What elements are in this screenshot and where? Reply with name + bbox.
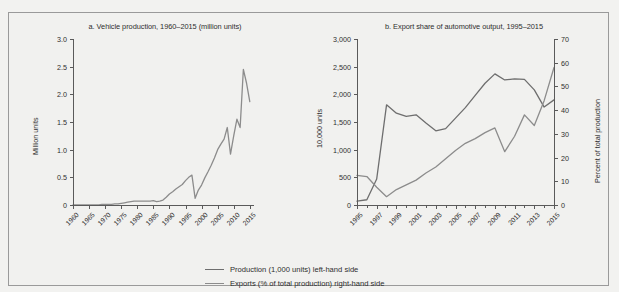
plot-b-xtick-label: 1995: [342, 211, 364, 233]
legend: Production (1,000 units) left-hand side …: [205, 262, 505, 290]
plot-b-xtick-label: 2011: [500, 211, 522, 233]
plot-b-ytick-label: 2,500: [311, 62, 351, 71]
plot-a-xtick-mark: [169, 206, 170, 209]
plot-b-ytick-mark: [354, 177, 357, 178]
panel-b-export-share: b. Export share of automotive output, 19…: [309, 13, 619, 257]
legend-swatch-production-icon: [205, 269, 224, 270]
plot-a-xtick-mark: [234, 206, 235, 209]
plot-b-xtick-label: 2001: [401, 211, 423, 233]
plot-b-xtick-minor: [446, 206, 447, 208]
plot-b-ytick-label: 0: [311, 201, 351, 210]
plot-b-ytick-mark: [354, 150, 357, 151]
plot-b-xtick-minor: [426, 206, 427, 208]
plot-a-y-axis-spine: [73, 39, 74, 206]
figure-frame: a. Vehicle production, 1960–2015 (millio…: [8, 12, 609, 286]
plot-a-ytick-mark: [70, 94, 73, 95]
plot-a-xtick-mark: [73, 206, 74, 209]
plot-a-ytick-mark: [70, 67, 73, 68]
plot-a-xtick-mark: [250, 206, 251, 209]
plot-a-ytick-mark: [70, 39, 73, 40]
plot-b-xtick-minor: [465, 206, 466, 208]
plot-b-ytick-label-right: 10: [561, 177, 585, 186]
panel-b-title: b. Export share of automotive output, 19…: [309, 22, 619, 31]
plot-b-ytick-mark-right: [555, 205, 558, 206]
plot-b-ytick-label: 3,000: [311, 35, 351, 44]
plot-b-xtick-minor: [416, 206, 417, 208]
plot-b-ytick-mark-right: [555, 86, 558, 87]
plot-b-ytick-label: 1,000: [311, 145, 351, 154]
legend-item-production[interactable]: Production (1,000 units) left-hand side: [205, 262, 505, 276]
panel-b-plot-area: 05001,0001,5002,0002,5003,00001020304050…: [357, 39, 554, 205]
panel-a-title: a. Vehicle production, 1960–2015 (millio…: [17, 22, 313, 31]
plot-b-xtick-label: 2015: [539, 211, 561, 233]
plot-b-xtick-minor: [544, 206, 545, 208]
plot-a-ytick-label: 2.5: [27, 62, 67, 71]
plot-a-xtick-mark: [89, 206, 90, 209]
plot-a-ytick-label: 1.5: [27, 118, 67, 127]
plot-b-xtick-label: 2007: [460, 211, 482, 233]
legend-item-exports[interactable]: Exports (% of total production) right-ha…: [205, 276, 505, 290]
panel-a-plot-area: 00.51.01.52.02.53.0196019651970197519801…: [73, 39, 253, 205]
plot-a-xtick-mark: [202, 206, 203, 209]
panel-b-left-axis-title: 10,000 units: [315, 109, 324, 148]
plot-a-ytick-label: 3.0: [27, 35, 67, 44]
plot-b-ytick-label-right: 60: [561, 58, 585, 67]
plot-a-xtick-mark: [153, 206, 154, 209]
plot-b-xtick-label: 2013: [519, 211, 541, 233]
plot-b-ytick-mark-right: [555, 158, 558, 159]
plot-b-xtick-minor: [534, 206, 535, 208]
plot-b-ytick-mark-right: [555, 110, 558, 111]
plot-b-xtick-label: 2005: [441, 211, 463, 233]
plot-b-xtick-minor: [377, 206, 378, 208]
plot-a-xtick-mark: [218, 206, 219, 209]
plot-b-ytick-mark-right: [555, 63, 558, 64]
plot-a-ytick-label: 0.5: [27, 173, 67, 182]
plot-a-ytick-mark: [70, 177, 73, 178]
plot-b-ytick-label-right: 70: [561, 35, 585, 44]
plot-b-lines: [357, 39, 555, 206]
plot-b-xtick-minor: [524, 206, 525, 208]
plot-a-ytick-label: 2.0: [27, 90, 67, 99]
plot-b-xtick-minor: [554, 206, 555, 208]
plot-b-ytick-mark-right: [555, 134, 558, 135]
plot-b-xtick-label: 2003: [421, 211, 443, 233]
plot-b-xtick-minor: [367, 206, 368, 208]
plot-b-xtick-minor: [406, 206, 407, 208]
plot-a-xtick-mark: [105, 206, 106, 209]
plot-b-xtick-label: 2009: [480, 211, 502, 233]
plot-a-ytick-mark: [70, 122, 73, 123]
plot-b-xtick-minor: [505, 206, 506, 208]
plot-b-xtick-minor: [387, 206, 388, 208]
plot-b-xtick-minor: [357, 206, 358, 208]
plot-b-ytick-label: 500: [311, 173, 351, 182]
plot-a-xtick-mark: [137, 206, 138, 209]
plot-a-x-axis-spine: [73, 205, 254, 206]
plot-b-xtick-minor: [436, 206, 437, 208]
plot-b-ytick-label-right: 50: [561, 82, 585, 91]
plot-b-xtick-minor: [396, 206, 397, 208]
plot-b-ytick-mark-right: [555, 39, 558, 40]
plot-b-ytick-mark: [354, 39, 357, 40]
plot-b-xtick-label: 1999: [381, 211, 403, 233]
plot-b-ytick-label-right: 30: [561, 129, 585, 138]
cropped-top-title: [0, 0, 619, 6]
plot-b-xtick-label: 1997: [362, 211, 384, 233]
plot-b-xtick-minor: [515, 206, 516, 208]
plot-b-series-exports: [357, 67, 554, 196]
plot-a-ytick-label: 0: [27, 201, 67, 210]
panel-b-right-axis-title: Percent of total production: [593, 99, 602, 183]
plot-b-xtick-minor: [475, 206, 476, 208]
plot-b-series-production: [357, 74, 554, 201]
plot-b-ytick-label: 2,000: [311, 90, 351, 99]
legend-label-exports: Exports (% of total production) right-ha…: [230, 279, 385, 288]
plot-b-xtick-minor: [485, 206, 486, 208]
panel-a-vehicle-production: a. Vehicle production, 1960–2015 (millio…: [17, 13, 313, 257]
plot-b-xtick-minor: [456, 206, 457, 208]
plot-b-ytick-label-right: 20: [561, 153, 585, 162]
plot-b-ytick-mark-right: [555, 181, 558, 182]
figure-container: a. Vehicle production, 1960–2015 (millio…: [0, 0, 619, 292]
legend-label-production: Production (1,000 units) left-hand side: [230, 265, 358, 274]
plot-a-ytick-mark: [70, 150, 73, 151]
plot-a-xtick-mark: [121, 206, 122, 209]
plot-a-series-production: [73, 69, 250, 205]
